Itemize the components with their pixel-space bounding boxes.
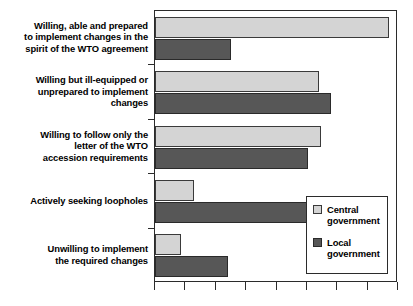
x-axis-tick-4 (276, 282, 277, 290)
category-label-0: Willing, able and preparedto implement c… (0, 20, 148, 55)
category-axis-labels: Willing, able and preparedto implement c… (0, 10, 152, 282)
bar-local-2 (155, 148, 308, 169)
bar-chart: Willing, able and preparedto implement c… (0, 0, 413, 306)
bar-central-4 (155, 234, 181, 255)
bar-local-0 (155, 39, 231, 60)
category-label-2: Willing to follow only theletter of the … (0, 129, 148, 164)
x-axis-ticks (154, 282, 397, 294)
x-axis-tick-8 (397, 282, 398, 290)
legend-label-central: Centralgovernment (327, 204, 380, 227)
bar-central-1 (155, 71, 319, 92)
legend-entry-central[interactable]: Centralgovernment (313, 204, 387, 227)
x-axis-tick-5 (306, 282, 307, 290)
legend-swatch-local-icon (313, 238, 322, 247)
bar-local-4 (155, 256, 228, 277)
legend-swatch-central-icon (313, 205, 322, 214)
category-label-1: Willing but ill-equipped orunprepared to… (0, 74, 148, 109)
category-label-3: Actively seeking loopholes (0, 195, 148, 207)
chart-legend: CentralgovernmentLocalgovernment (306, 196, 388, 274)
legend-entry-local[interactable]: Localgovernment (313, 237, 387, 260)
x-axis-tick-3 (245, 282, 246, 290)
x-axis-tick-7 (367, 282, 368, 290)
bar-central-3 (155, 180, 194, 201)
x-axis-tick-2 (215, 282, 216, 290)
bar-local-1 (155, 93, 331, 114)
x-axis-tick-1 (184, 282, 185, 290)
bar-central-2 (155, 126, 321, 147)
bar-central-0 (155, 17, 389, 38)
category-label-4: Unwilling to implementthe required chang… (0, 243, 148, 266)
bar-local-3 (155, 202, 313, 223)
legend-label-local: Localgovernment (327, 237, 380, 260)
x-axis-tick-6 (336, 282, 337, 290)
x-axis-tick-0 (154, 282, 155, 290)
